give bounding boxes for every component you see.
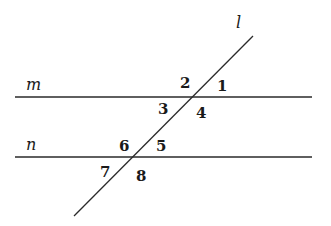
angle-7-label: 7	[100, 163, 110, 181]
parallel-lines-diagram: m n l 1 2 3 4 5 6 7 8	[0, 0, 331, 226]
angle-6-label: 6	[119, 137, 129, 155]
line-l-label: l	[236, 13, 241, 32]
transversal-l	[74, 36, 253, 216]
angle-4-label: 4	[196, 104, 206, 122]
diagram-svg: m n l 1 2 3 4 5 6 7 8	[0, 0, 331, 226]
angle-1-label: 1	[217, 77, 227, 95]
angle-2-label: 2	[180, 74, 190, 92]
angle-8-label: 8	[136, 167, 146, 185]
angle-5-label: 5	[156, 137, 166, 155]
angle-3-label: 3	[158, 100, 168, 118]
line-m-label: m	[26, 75, 41, 94]
line-n-label: n	[26, 135, 36, 154]
